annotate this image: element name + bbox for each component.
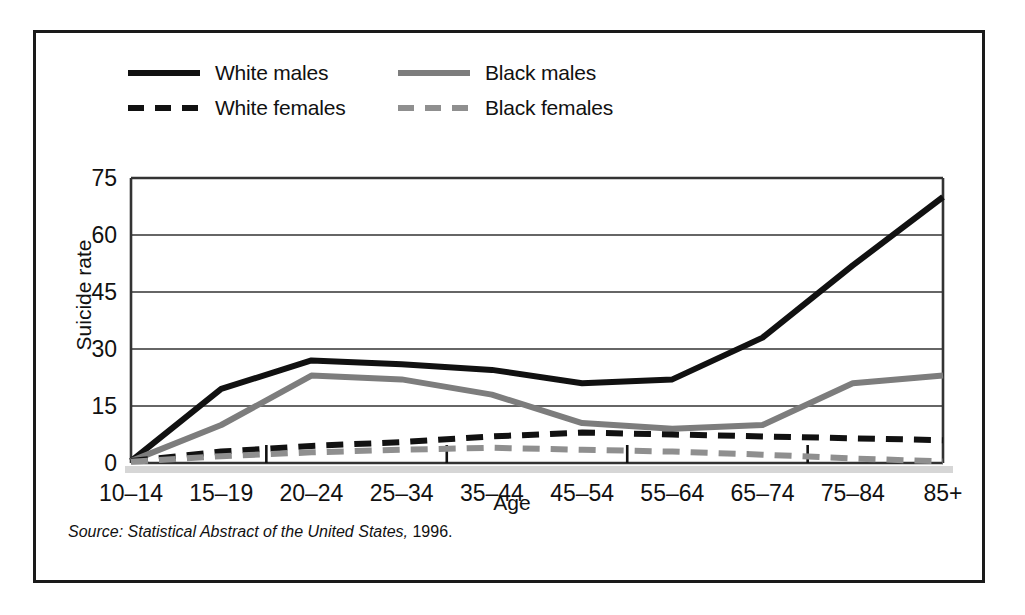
y-axis-tick-label: 60 <box>91 222 117 248</box>
y-axis-tick-label: 30 <box>91 336 117 362</box>
source-note: Source: Statistical Abstract of the Unit… <box>68 523 453 541</box>
line-chart-svg: 0153045607510–1415–1920–2425–3435–4445–5… <box>36 133 988 533</box>
legend-swatch-white-males <box>128 70 200 76</box>
legend-label-black-females: Black females <box>485 96 613 120</box>
legend-item-black-males: Black males <box>398 58 596 88</box>
series-line-white-males <box>131 197 943 461</box>
legend-swatch-black-females <box>398 105 470 111</box>
legend-item-black-females: Black females <box>398 93 613 123</box>
plot-area: Suicide rate 0153045607510–1415–1920–242… <box>36 133 988 533</box>
legend-item-white-females: White females <box>128 93 345 123</box>
y-axis-tick-label: 15 <box>91 393 117 419</box>
legend-label-black-males: Black males <box>485 61 596 85</box>
legend-swatch-white-females <box>128 105 200 111</box>
figure-frame: White males Black males White females Bl… <box>33 30 985 583</box>
source-year-text: 1996. <box>408 523 452 540</box>
y-axis-tick-label: 0 <box>104 450 117 476</box>
baseline-shadow <box>125 466 953 473</box>
source-italic-text: Source: Statistical Abstract of the Unit… <box>68 523 408 540</box>
legend-item-white-males: White males <box>128 58 328 88</box>
y-axis-tick-label: 45 <box>91 279 117 305</box>
y-axis-tick-label: 75 <box>91 165 117 191</box>
chart-legend: White males Black males White females Bl… <box>128 58 688 130</box>
x-axis-title: Age <box>36 491 988 515</box>
legend-swatch-black-males <box>398 70 470 76</box>
legend-label-white-females: White females <box>215 96 345 120</box>
legend-label-white-males: White males <box>215 61 328 85</box>
